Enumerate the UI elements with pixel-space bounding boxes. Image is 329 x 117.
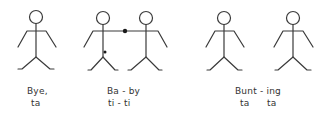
stick-figure-ba: [84, 12, 125, 71]
rhythm-label-bye: ta: [31, 98, 40, 108]
rhythm-label-bunting-1: ta: [240, 98, 249, 108]
word-label-baby: Ba - by: [107, 86, 140, 96]
rhythm-label-baby: ti - ti: [108, 98, 130, 108]
rhythm-label-bunting-2: ta: [267, 98, 276, 108]
stick-figure-bye: [18, 11, 56, 70]
rhythm-stick-figure-diagram: Bye, ta Ba - by ti - ti Bunt - ing ta ta: [0, 0, 329, 117]
stick-figure-by: [125, 12, 167, 71]
word-label-bye: Bye,: [27, 86, 48, 96]
small-marker-dot: [104, 51, 107, 54]
stick-figure-ing: [274, 12, 313, 71]
joined-hands-dot: [123, 29, 127, 33]
word-label-bunting: Bunt - ing: [235, 86, 281, 96]
stick-figures: [0, 0, 329, 117]
stick-figure-bunt: [206, 12, 244, 71]
